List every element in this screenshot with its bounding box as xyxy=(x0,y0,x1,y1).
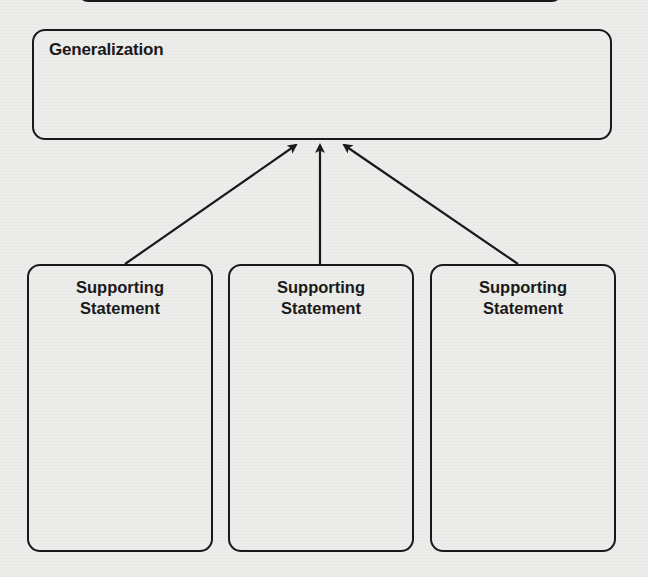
generalization-box: Generalization xyxy=(32,29,612,140)
supporting-statement-label-1: Supporting Statement xyxy=(29,277,211,319)
previous-box-bottom-edge xyxy=(78,0,562,2)
supporting-statement-box-3: Supporting Statement xyxy=(430,264,616,552)
arrow-right-to-generalization xyxy=(344,145,518,264)
supporting-statement-box-2: Supporting Statement xyxy=(228,264,414,552)
supporting-statement-box-1: Supporting Statement xyxy=(27,264,213,552)
arrow-left-to-generalization xyxy=(125,145,296,264)
generalization-label: Generalization xyxy=(49,40,163,60)
supporting-statement-label-3: Supporting Statement xyxy=(432,277,614,319)
supporting-statement-label-2: Supporting Statement xyxy=(230,277,412,319)
